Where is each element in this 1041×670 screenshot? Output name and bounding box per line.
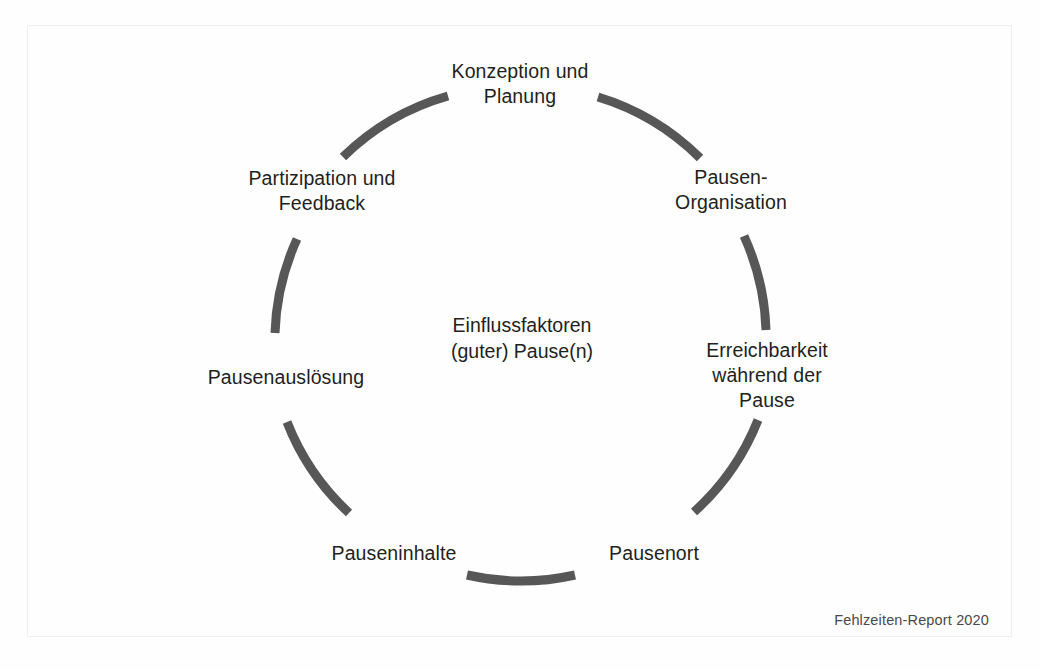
arc-pausenausloesung-to-partizipation [275, 239, 297, 333]
arc-pauseninhalte-to-pausenausloesung [287, 422, 349, 513]
source-credit: Fehlzeiten-Report 2020 [834, 612, 989, 628]
arc-pausenorganisation-to-erreichbarkeit [744, 236, 766, 330]
node-label-partizipation-und-feedback: Partizipation und Feedback [249, 166, 396, 216]
arc-pausenort-to-pauseninhalte [467, 575, 575, 581]
node-label-erreichbarkeit-waehrend-der-pause: Erreichbarkeit während der Pause [706, 338, 828, 413]
node-label-konzeption-und-planung: Konzeption und Planung [452, 59, 589, 109]
node-label-pausenausloesung: Pausenauslösung [208, 365, 365, 390]
figure-page: Konzeption und Planung Pausen- Organisat… [0, 0, 1041, 670]
node-label-pausen-organisation: Pausen- Organisation [675, 165, 787, 215]
arc-konzeption-to-pausenorganisation [598, 97, 700, 158]
arc-erreichbarkeit-to-pausenort [694, 420, 758, 512]
center-label: Einflussfaktoren (guter) Pause(n) [451, 312, 593, 364]
node-label-pausenort: Pausenort [609, 541, 699, 566]
node-label-pauseninhalte: Pauseninhalte [332, 541, 457, 566]
arc-partizipation-to-konzeption [343, 96, 448, 157]
